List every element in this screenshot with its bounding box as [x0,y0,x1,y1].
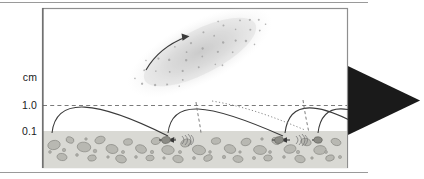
ground-layer [43,131,347,168]
